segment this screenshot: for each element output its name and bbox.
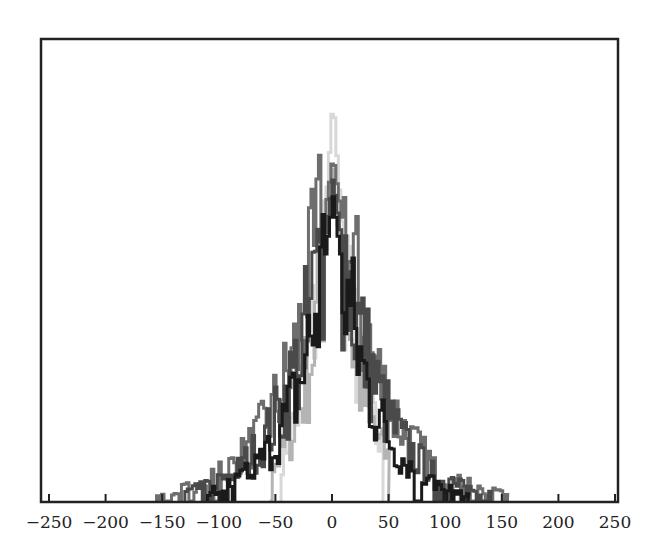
- histogram-chart: −250 −200 −150 −100 −50 0 50 100 150 200…: [0, 0, 663, 555]
- x-tick-label: 0: [327, 512, 338, 532]
- x-tick-label: 100: [429, 512, 461, 532]
- x-tick-label: −150: [139, 512, 186, 532]
- x-tick-label: −50: [257, 512, 293, 532]
- plot-background: [41, 39, 618, 502]
- x-tick-labels: −250 −200 −150 −100 −50 0 50 100 150 200…: [26, 512, 632, 532]
- x-tick-label: 150: [486, 512, 518, 532]
- x-tick-label: 200: [542, 512, 574, 532]
- x-tick-label: 50: [378, 512, 400, 532]
- x-tick-label: 250: [599, 512, 631, 532]
- x-tick-label: −250: [26, 512, 73, 532]
- x-tick-label: −200: [82, 512, 129, 532]
- x-tick-label: −100: [195, 512, 242, 532]
